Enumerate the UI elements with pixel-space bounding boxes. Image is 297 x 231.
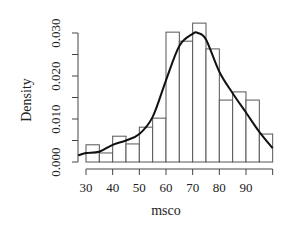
x-tick-label: 90 <box>240 180 253 195</box>
y-tick-label: 0.010 <box>48 104 63 133</box>
x-axis-label: msco <box>151 203 181 218</box>
histogram-bar <box>179 41 192 162</box>
histogram-bar <box>259 134 272 162</box>
y-axis: 0.0000.0100.0200.030 <box>48 18 78 176</box>
y-tick-label: 0.030 <box>48 18 63 47</box>
x-tick-label: 80 <box>213 180 226 195</box>
histogram-bar <box>153 118 166 162</box>
histogram-bar <box>219 100 232 162</box>
x-tick-label: 40 <box>106 180 119 195</box>
histogram-bar <box>126 144 139 162</box>
histogram-bar <box>193 23 206 162</box>
x-tick-label: 30 <box>80 180 93 195</box>
histogram-chart: 0.0000.0100.0200.030 30405060708090 Dens… <box>0 0 297 231</box>
x-tick-label: 70 <box>186 180 199 195</box>
histogram-bar <box>113 136 126 162</box>
y-tick-label: 0.000 <box>48 147 63 176</box>
x-axis: 30405060708090 <box>80 169 273 195</box>
histogram-bar <box>246 100 259 162</box>
y-axis-label: Density <box>19 78 34 122</box>
histogram-bars <box>86 23 273 162</box>
x-tick-label: 50 <box>133 180 146 195</box>
histogram-bar <box>99 153 112 162</box>
y-tick-label: 0.020 <box>48 61 63 90</box>
x-tick-label: 60 <box>160 180 173 195</box>
